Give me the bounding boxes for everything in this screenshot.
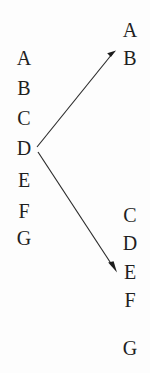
right-letter-2: C — [120, 205, 140, 225]
left-letter-1: B — [14, 78, 34, 98]
arrow-d-to-b-icon — [37, 51, 116, 148]
right-letter-6: G — [120, 338, 140, 358]
right-letter-3: D — [120, 233, 140, 253]
arrow-d-to-e-icon — [38, 152, 117, 273]
arrow-d-to-e-line — [38, 152, 113, 267]
arrow-d-to-b-line — [37, 54, 113, 148]
left-letter-2: C — [14, 108, 34, 128]
diagram-canvas: A B C D E F G A B C D E F G — [0, 0, 150, 373]
left-letter-6: G — [14, 228, 34, 248]
right-letter-4: E — [120, 262, 140, 282]
left-letter-4: E — [14, 170, 34, 190]
left-letter-3: D — [14, 138, 34, 158]
right-letter-0: A — [120, 20, 140, 40]
right-letter-5: F — [120, 290, 140, 310]
right-letter-1: B — [120, 48, 140, 68]
arrow-d-to-e-head — [108, 261, 117, 272]
arrow-d-to-b-head — [107, 51, 116, 58]
left-letter-0: A — [14, 48, 34, 68]
left-letter-5: F — [14, 201, 34, 221]
